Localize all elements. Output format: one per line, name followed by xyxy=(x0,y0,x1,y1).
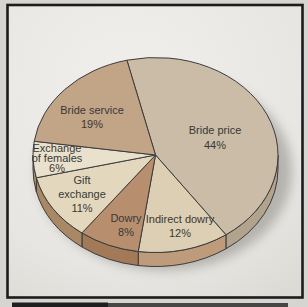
scan-artifact-bar xyxy=(12,303,288,307)
scan-artifact-light-segment xyxy=(108,303,288,307)
scan-artifact-dark-segment xyxy=(12,303,108,307)
pie-figure-svg: Bride price44%Indirect dowry12%Dowry8%Gi… xyxy=(0,0,308,307)
scanned-figure-page: Bride price44%Indirect dowry12%Dowry8%Gi… xyxy=(0,0,308,307)
